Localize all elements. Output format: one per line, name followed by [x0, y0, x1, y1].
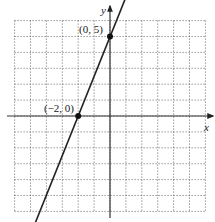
- point-label-neg2-0: (−2, 0): [44, 102, 74, 115]
- y-axis-label: y: [100, 4, 106, 16]
- x-axis-label: x: [203, 121, 209, 133]
- point-label-0-5: (0, 5): [79, 23, 103, 36]
- coordinate-plane: x y (0, 5) (−2, 0): [0, 0, 215, 222]
